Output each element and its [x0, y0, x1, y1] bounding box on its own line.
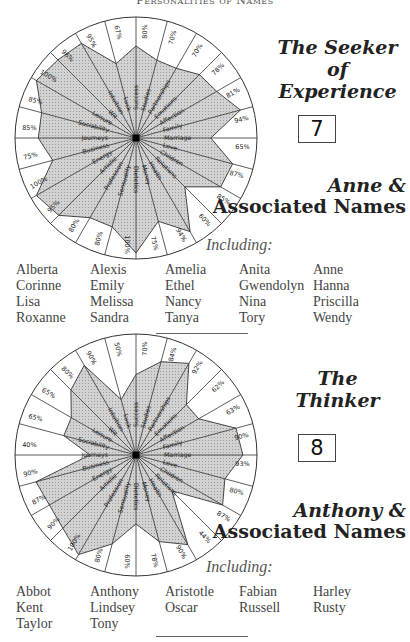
value-label: 60% [123, 554, 131, 568]
name-item: Fabian [239, 584, 313, 600]
name-item: Aristotle [165, 584, 239, 600]
value-label: 40% [22, 441, 36, 449]
name-item: Abbot [16, 584, 90, 600]
names-list: AbbotAnthonyAristotleFabianHarleyKentLin… [16, 584, 387, 632]
section-thinker: Success70%Studies84%Partnerships92%Emoti… [0, 0, 410, 642]
name-item: Lindsey [90, 600, 165, 616]
including-label: Including: [206, 558, 273, 576]
value-label: 70% [141, 341, 149, 355]
associated-names-heading: Anthony & Associated Names [206, 500, 406, 542]
title-line-2: Thinker [265, 389, 410, 411]
category-label: Journeys [80, 451, 108, 459]
assoc-line-1: Anthony & [206, 500, 406, 521]
divider [156, 636, 248, 637]
name-item: Tony [90, 616, 165, 632]
name-item: Anthony [90, 584, 165, 600]
assoc-line-2: Associated Names [206, 521, 406, 542]
name-item: Harley [313, 584, 387, 600]
name-item: Kent [16, 600, 90, 616]
personality-title: The Thinker [265, 367, 410, 411]
category-label: Marriage [164, 451, 192, 459]
name-item: Taylor [16, 616, 90, 632]
value-label: 93% [235, 460, 249, 468]
name-item: Russell [239, 600, 313, 616]
name-item: Oscar [165, 600, 239, 616]
category-label: Dietetics [133, 483, 140, 510]
title-line-1: The [265, 367, 410, 389]
personality-number-badge: 8 [298, 434, 336, 462]
name-item: Rusty [313, 600, 387, 616]
